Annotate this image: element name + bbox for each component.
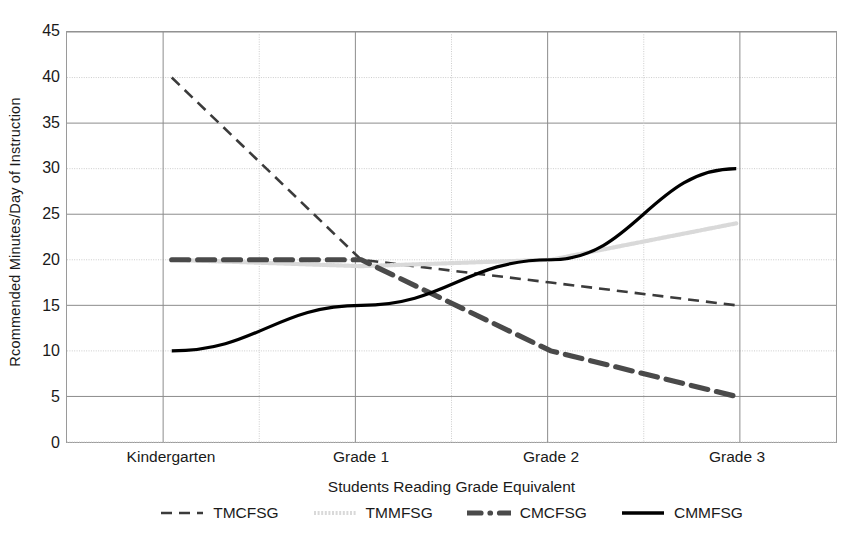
series-lines xyxy=(67,32,836,442)
y-axis-tick-label: 10 xyxy=(24,343,60,359)
x-axis-tick-label-grade-3: Grade 3 xyxy=(709,449,765,465)
x-axis-title: Students Reading Grade Equivalent xyxy=(66,478,837,496)
legend-item-label: TMCFSG xyxy=(213,505,278,521)
x-axis-tick-labels: KindergartenGrade 1Grade 2Grade 3 xyxy=(66,449,837,473)
plot-area xyxy=(66,31,837,443)
legend-item-label: CMCFSG xyxy=(520,505,587,521)
legend-item-tmmfsg[interactable]: TMMFSG xyxy=(313,505,433,521)
y-axis-tick-label: 0 xyxy=(24,435,60,451)
x-axis-tick-label-kindergarten: Kindergarten xyxy=(127,449,216,465)
legend-item-label: CMMFSG xyxy=(674,505,743,521)
solid-line-swatch xyxy=(621,506,665,520)
legend-item-cmmfsg[interactable]: CMMFSG xyxy=(621,505,743,521)
series-line xyxy=(172,260,737,397)
series-cmcfsg xyxy=(172,260,737,397)
legend-item-tmcfsg[interactable]: TMCFSG xyxy=(160,505,278,521)
x-axis-tick-label-grade-2: Grade 2 xyxy=(523,449,579,465)
light-dotted-line-swatch xyxy=(313,506,357,520)
y-axis-tick-label: 25 xyxy=(24,206,60,222)
y-axis-tick-label: 30 xyxy=(24,160,60,176)
thick-dash-dot-line-swatch xyxy=(467,506,511,520)
y-axis-tick-label: 45 xyxy=(24,23,60,39)
legend-item-label: TMMFSG xyxy=(366,505,433,521)
y-axis-tick-label: 5 xyxy=(24,389,60,405)
line-chart: Rcommended Minutes/Day of Instruction 45… xyxy=(0,0,850,546)
y-axis-tick-labels: 454035302520151050 xyxy=(20,0,60,546)
y-axis-tick-label: 35 xyxy=(24,115,60,131)
x-axis-tick-label-grade-1: Grade 1 xyxy=(333,449,389,465)
y-axis-tick-label: 15 xyxy=(24,298,60,314)
legend-item-cmcfsg[interactable]: CMCFSG xyxy=(467,505,587,521)
chart-legend: TMCFSGTMMFSGCMCFSGCMMFSG xyxy=(66,505,837,521)
series-line xyxy=(172,78,737,306)
series-tmcfsg xyxy=(172,78,737,306)
y-axis-tick-label: 40 xyxy=(24,69,60,85)
dashed-line-swatch xyxy=(160,506,204,520)
y-axis-tick-label: 20 xyxy=(24,252,60,268)
